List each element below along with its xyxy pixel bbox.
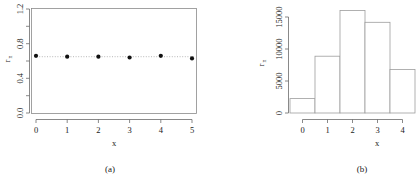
x-tick-label: 3: [127, 125, 131, 135]
y-tick-label: 5000: [274, 73, 284, 90]
y-tick-label: 0.8: [15, 38, 25, 49]
x-tick-label: 2: [96, 125, 100, 135]
histogram-bar: [290, 99, 315, 113]
x-tick-label: 1: [325, 125, 329, 135]
histogram-bar: [365, 22, 390, 113]
y-axis-title-subscript: n: [261, 59, 267, 62]
x-tick-label: 5: [190, 125, 194, 135]
x-axis-title-a: x: [112, 138, 117, 148]
caption-a: (a): [105, 164, 115, 174]
y-tick-labels-a: 0.0 0.4 0.8 1.2: [15, 4, 25, 119]
y-tick-label: 15000: [274, 6, 284, 27]
plot-box-a: [32, 9, 197, 114]
y-axis-title-text: r: [256, 63, 266, 66]
x-tick-label: 0: [300, 125, 304, 135]
y-axis-title-b: r n: [256, 59, 267, 66]
histogram-bar: [390, 70, 415, 114]
x-axis-title-b: x: [375, 138, 380, 148]
x-tick-labels-b: 0 1 2 3 4: [300, 125, 405, 135]
y-tick-label: 0.4: [15, 72, 25, 83]
x-tick-label: 2: [350, 125, 354, 135]
data-point: [96, 55, 100, 59]
figure-container: 0.0 0.4 0.8 1.2 r n 0: [0, 0, 417, 181]
panel-b-histogram: 0 5000 10000 15000 r n: [207, 0, 417, 181]
data-points-a: [34, 54, 194, 61]
panel-a-svg: 0.0 0.4 0.8 1.2 r n 0: [0, 0, 210, 181]
y-tick-label: 1.2: [15, 4, 25, 15]
x-tick-label: 0: [34, 125, 38, 135]
y-tick-label: 0.0: [15, 108, 25, 119]
x-ticks-b: [303, 120, 403, 124]
data-point: [34, 54, 38, 58]
y-ticks-b: [285, 17, 289, 113]
x-tick-label: 4: [400, 125, 405, 135]
data-point: [128, 55, 132, 59]
y-axis-title-text: r: [2, 59, 12, 62]
x-ticks-a: [36, 120, 192, 124]
histogram-bars: [290, 10, 415, 113]
panel-b-svg: 0 5000 10000 15000 r n: [207, 0, 417, 181]
x-tick-label: 4: [159, 125, 164, 135]
data-point: [65, 55, 69, 59]
histogram-bar: [315, 56, 340, 113]
y-tick-label: 10000: [274, 38, 284, 59]
y-tick-labels-b: 0 5000 10000 15000: [274, 6, 284, 115]
y-axis-title-subscript: n: [7, 55, 13, 58]
y-tick-label: 0: [274, 111, 284, 115]
x-tick-labels-a: 0 1 2 3 4 5: [34, 125, 194, 135]
histogram-bar: [340, 10, 365, 113]
caption-b: (b): [357, 164, 368, 174]
y-ticks-a: [26, 9, 30, 113]
data-point: [190, 56, 194, 60]
data-point: [159, 54, 163, 58]
y-axis-title-a: r n: [2, 55, 13, 62]
x-tick-label: 3: [375, 125, 379, 135]
panel-a-scatter: 0.0 0.4 0.8 1.2 r n 0: [0, 0, 210, 181]
x-tick-label: 1: [65, 125, 69, 135]
